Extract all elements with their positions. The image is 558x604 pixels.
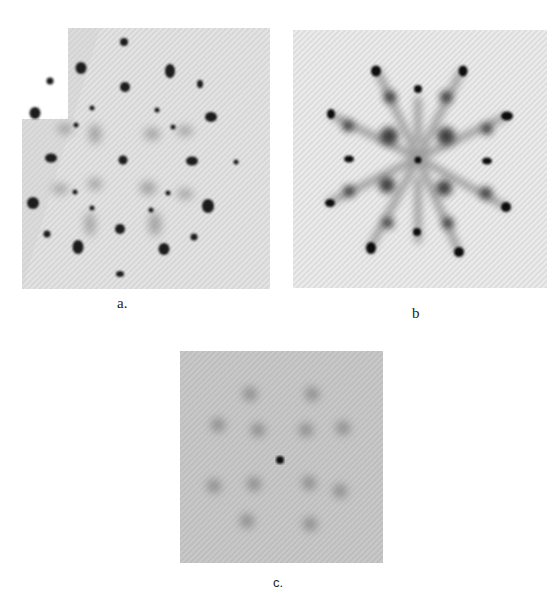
diffraction-panel-c (180, 351, 383, 563)
panel-a-label: a. (117, 295, 127, 312)
diffraction-panel-b (293, 30, 547, 288)
diffraction-panel-a (20, 24, 278, 289)
panel-b-label: b (412, 305, 420, 322)
panel-c-label: c. (273, 575, 283, 590)
